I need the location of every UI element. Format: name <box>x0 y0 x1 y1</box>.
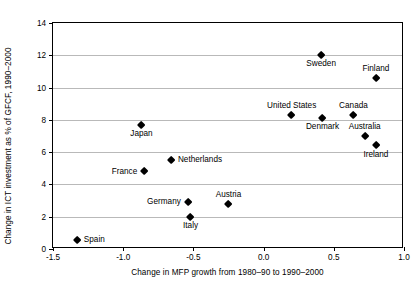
x-tick-label: -0.5 <box>186 253 200 262</box>
y-tick-label: 12 <box>37 51 46 60</box>
gridline <box>53 88 402 89</box>
data-point-label: Australia <box>349 122 381 132</box>
y-tick-mark <box>49 120 53 121</box>
x-tick-label: 1.0 <box>398 253 409 262</box>
x-tick-label: -1.0 <box>116 253 130 262</box>
y-tick-label: 10 <box>37 83 46 92</box>
data-point-marker <box>287 110 296 119</box>
data-point-marker <box>349 110 358 119</box>
x-tick-label: 0.0 <box>258 253 269 262</box>
y-tick-label: 14 <box>37 19 46 28</box>
data-point-marker <box>166 156 175 165</box>
y-tick-mark <box>49 88 53 89</box>
y-tick-label: 6 <box>41 148 46 157</box>
x-tick-mark <box>334 247 335 251</box>
data-point-label: Italy <box>183 221 198 231</box>
y-tick-mark <box>49 184 53 185</box>
y-tick-label: 2 <box>41 212 46 221</box>
x-tick-mark <box>123 247 124 251</box>
data-point-label: Sweden <box>306 59 336 69</box>
data-point-label: Germany <box>147 197 181 207</box>
gridline <box>53 184 402 185</box>
data-point-label: France <box>112 167 137 177</box>
data-point-marker <box>371 73 380 82</box>
gridline <box>53 55 402 56</box>
data-point-marker <box>72 236 81 245</box>
data-point-label: Austria <box>216 190 241 200</box>
gridline <box>53 217 402 218</box>
data-point-label: Ireland <box>363 150 388 160</box>
x-tick-mark <box>404 247 405 251</box>
x-tick-label: 0.5 <box>328 253 339 262</box>
y-tick-label: 4 <box>41 180 46 189</box>
data-point-label: Finland <box>362 64 389 74</box>
gridline <box>53 152 402 153</box>
data-point-label: Canada <box>339 101 368 111</box>
x-tick-label: -1.5 <box>46 253 60 262</box>
x-axis-title: Change in MFP growth from 1980–90 to 199… <box>52 268 403 277</box>
gridline <box>53 120 402 121</box>
data-point-marker <box>360 131 369 140</box>
data-point-label: Netherlands <box>178 155 222 165</box>
data-point-label: Japan <box>130 129 152 139</box>
data-point-label: Spain <box>84 235 105 245</box>
data-point-marker <box>183 198 192 207</box>
scatter-chart-figure: Change in ICT investment as % of GFCF, 1… <box>0 0 420 292</box>
y-tick-label: 8 <box>41 115 46 124</box>
x-tick-mark <box>53 247 54 251</box>
y-tick-mark <box>49 217 53 218</box>
x-tick-mark <box>264 247 265 251</box>
data-point-label: United States <box>267 101 316 111</box>
plot-area: 02468101214 -1.5-1.0-0.50.00.51.0 Sweden… <box>52 22 403 248</box>
y-tick-mark <box>49 152 53 153</box>
data-point-marker <box>140 167 149 176</box>
y-tick-mark <box>49 55 53 56</box>
y-axis-title: Change in ICT investment as % of GFCF, 1… <box>2 22 16 270</box>
data-point-marker <box>224 199 233 208</box>
x-tick-mark <box>193 247 194 251</box>
y-tick-mark <box>49 23 53 24</box>
data-point-label: Denmark <box>306 122 339 132</box>
